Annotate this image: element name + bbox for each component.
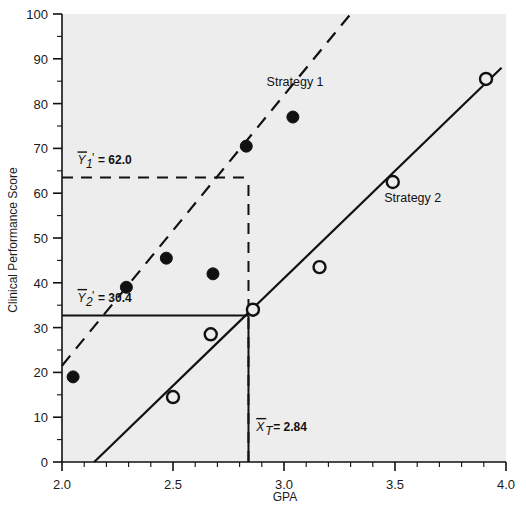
y-tick-label: 10	[34, 410, 48, 425]
y-tick-label: 70	[34, 141, 48, 156]
y-tick-label: 60	[34, 186, 48, 201]
x-tick-label: 3.5	[386, 477, 404, 492]
data-point-strategy-1	[207, 268, 219, 280]
series-label-strategy-1: Strategy 1	[267, 75, 324, 89]
x-total-mean-value: = 2.84	[273, 420, 307, 434]
figure-container: 01020304050607080901002.02.53.03.54.0 Y1…	[0, 0, 526, 519]
y1-mean-prediction-prime: '	[92, 151, 94, 165]
data-point-strategy-2	[314, 261, 326, 273]
x-axis-title: GPA	[273, 490, 297, 504]
data-point-strategy-1	[287, 111, 299, 123]
y2-mean-prediction-value: = 30.4	[98, 291, 132, 305]
y-tick-label: 100	[26, 7, 48, 22]
y-tick-label: 50	[34, 231, 48, 246]
y1-mean-prediction-value: = 62.0	[98, 153, 132, 167]
data-point-strategy-1	[160, 252, 172, 264]
y-axis-title: Clinical Performance Score	[6, 167, 20, 313]
y-tick-label: 80	[34, 97, 48, 112]
data-point-strategy-1	[67, 371, 79, 383]
y2-mean-prediction-prime: '	[92, 289, 94, 303]
y-tick-label: 30	[34, 321, 48, 336]
data-point-strategy-2	[205, 328, 217, 340]
x-total-mean-symbol: X	[255, 420, 265, 434]
data-point-strategy-2	[167, 391, 179, 403]
series-label-strategy-2: Strategy 2	[384, 191, 441, 205]
y-tick-label: 40	[34, 276, 48, 291]
data-point-strategy-2	[387, 176, 399, 188]
data-point-strategy-1	[240, 140, 252, 152]
y-tick-label: 0	[41, 455, 48, 470]
x-tick-label: 2.5	[164, 477, 182, 492]
y-tick-label: 90	[34, 52, 48, 67]
y-tick-label: 20	[34, 365, 48, 380]
data-point-strategy-2	[247, 304, 259, 316]
data-point-strategy-2	[480, 73, 492, 85]
x-tick-label: 4.0	[497, 477, 515, 492]
x-tick-label: 2.0	[53, 477, 71, 492]
scatter-plot-chart: 01020304050607080901002.02.53.03.54.0 Y1…	[0, 0, 526, 519]
